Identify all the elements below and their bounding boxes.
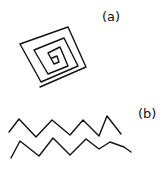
square-spiral-drawing	[20, 27, 86, 87]
panel-a-label: (a)	[102, 9, 120, 24]
panel-b-label: (b)	[138, 106, 156, 121]
zigzag-line-bottom	[11, 138, 131, 158]
figure-canvas	[0, 0, 167, 169]
zigzag-line-top	[9, 116, 121, 137]
panel-b-zigzags	[9, 116, 131, 158]
panel-a-spiral	[20, 27, 86, 87]
